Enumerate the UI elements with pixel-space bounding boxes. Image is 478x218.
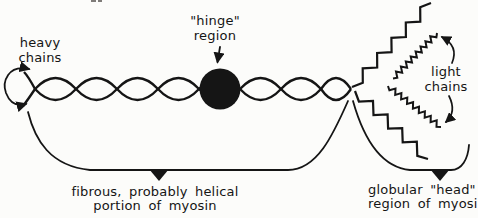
hinge-region-label: "hinge" region: [179, 13, 251, 43]
globular-head-label: globular "head" region of myosin: [368, 183, 478, 211]
light-chains-arrow-upper: [442, 37, 454, 63]
light-chains-arrow-lower: [446, 96, 452, 122]
light-chains-label-line2: chains: [419, 79, 473, 94]
fibrous-portion-label-line1: fibrous, probably helical: [50, 185, 260, 199]
hinge-region-label-line1: "hinge": [179, 13, 251, 28]
hinge-region-label-line2: region: [179, 28, 251, 43]
light-chains-label: light chains: [419, 64, 473, 94]
hinge-region-dot: [200, 69, 241, 110]
myosin-structure-diagram: heavy chains "hinge" region light chains…: [0, 0, 478, 218]
head-brace-tick: [430, 169, 450, 181]
globular-head-label-line1: globular "head": [368, 183, 478, 197]
heavy-chains-label-line1: heavy: [17, 35, 63, 50]
globular-head-label-line2: region of myosin: [368, 197, 478, 211]
lower-arm-zigzag: [355, 91, 428, 159]
fibrous-portion-label-line2: portion of myosin: [50, 199, 260, 213]
fibrous-brace: [28, 101, 348, 170]
heavy-chains-label: heavy chains: [17, 35, 63, 65]
light-chains-label-line1: light: [419, 64, 473, 79]
fibrous-brace-tick: [149, 169, 169, 181]
heavy-chains-label-line2: chains: [17, 50, 63, 65]
fibrous-portion-label: fibrous, probably helical portion of myo…: [50, 185, 260, 213]
hinge-arrow: [218, 47, 221, 62]
